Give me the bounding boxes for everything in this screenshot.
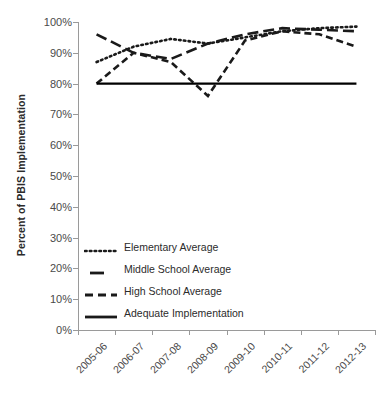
legend-item[interactable]: High School Average bbox=[84, 280, 274, 302]
y-tick-mark bbox=[73, 145, 78, 146]
legend-item[interactable]: Adequate Implementation bbox=[84, 302, 274, 324]
legend-swatch-dotted bbox=[84, 242, 118, 252]
legend-label: Adequate Implementation bbox=[124, 307, 244, 319]
x-tick-mark bbox=[338, 330, 339, 335]
legend-label: Elementary Average bbox=[124, 241, 218, 253]
y-tick-mark bbox=[73, 268, 78, 269]
x-tick-mark bbox=[152, 330, 153, 335]
y-tick-mark bbox=[73, 238, 78, 239]
y-tick-mark bbox=[73, 53, 78, 54]
y-tick-mark bbox=[73, 22, 78, 23]
series-line-dotted bbox=[97, 27, 357, 62]
x-tick-mark bbox=[264, 330, 265, 335]
y-tick-mark bbox=[73, 207, 78, 208]
x-tick-mark bbox=[115, 330, 116, 335]
x-tick-mark bbox=[227, 330, 228, 335]
legend-item[interactable]: Middle School Average bbox=[84, 258, 274, 280]
legend-item[interactable]: Elementary Average bbox=[84, 236, 274, 258]
legend-swatch-solid bbox=[84, 308, 118, 318]
x-tick-mark bbox=[375, 330, 376, 335]
y-tick-mark bbox=[73, 114, 78, 115]
y-tick-mark bbox=[73, 84, 78, 85]
x-tick-mark bbox=[78, 330, 79, 335]
chart-legend: Elementary AverageMiddle School AverageH… bbox=[84, 236, 274, 324]
chart-figure: Percent of PBIS Implementation 0%10%20%3… bbox=[0, 0, 390, 399]
x-tick-mark bbox=[189, 330, 190, 335]
y-tick-mark bbox=[73, 176, 78, 177]
legend-label: High School Average bbox=[124, 285, 222, 297]
legend-swatch-short-dash bbox=[84, 286, 118, 296]
plot-area bbox=[0, 0, 390, 399]
x-tick-mark bbox=[301, 330, 302, 335]
legend-label: Middle School Average bbox=[124, 263, 231, 275]
y-tick-mark bbox=[73, 299, 78, 300]
legend-swatch-long-dash bbox=[84, 264, 118, 274]
